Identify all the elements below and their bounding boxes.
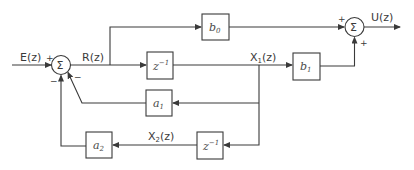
input-label: E(z) — [20, 51, 41, 64]
summing-junction-2: Σ — [345, 18, 364, 37]
r-signal-label: R(z) — [82, 51, 104, 64]
gain-block-a2: a2 — [86, 132, 112, 158]
gain-block-b1: b1 — [293, 53, 320, 80]
sum2-plus-bottom: + — [360, 38, 368, 48]
block-diagram: E(z) + Σ − − R(z) b0 + Σ + U(z) z−1 X1(z… — [0, 0, 414, 170]
x1-to-delay2-line — [224, 65, 259, 145]
b1-output-line — [320, 38, 355, 67]
sigma-symbol: Σ — [350, 21, 357, 34]
sum1-minus-right: − — [74, 72, 82, 82]
summing-junction-1: Σ — [52, 56, 71, 75]
sigma-symbol: Σ — [57, 59, 64, 72]
x2-signal-label: X2(z) — [148, 130, 174, 144]
output-label: U(z) — [371, 11, 393, 24]
delay-block-1: z−1 — [147, 52, 173, 79]
sum1-minus-bottom: − — [50, 76, 58, 86]
sum2-plus-left: + — [338, 14, 346, 24]
gain-block-a1: a1 — [146, 90, 172, 116]
gain-block-b0: b0 — [202, 14, 229, 40]
x1-signal-label: X1(z) — [250, 51, 276, 65]
delay-block-2: z−1 — [197, 132, 223, 159]
a2-feedback-line — [61, 76, 86, 147]
